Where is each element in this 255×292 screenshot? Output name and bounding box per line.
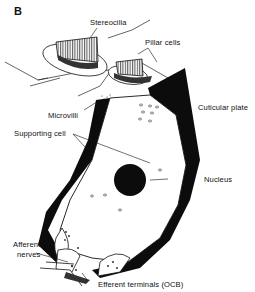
label-nucleus: Nucleus	[204, 176, 232, 184]
label-supporting-cell: Supporting cell	[14, 130, 66, 138]
panel-label: B	[14, 5, 22, 17]
label-microvilli: Microvilli	[48, 112, 78, 120]
label-afferent-line1: Afferent	[13, 241, 40, 249]
label-cuticular-plate: Cuticular plate	[198, 104, 248, 112]
hair-bundle-right	[107, 59, 152, 87]
label-pillar-cells: Pillar cells	[145, 39, 180, 47]
label-afferent-line2: nerves	[17, 251, 40, 259]
diagram-canvas: B Stereocilia Pillar cells Microvilli Cu…	[0, 0, 255, 292]
label-efferent-terminals: Efferent terminals (OCB)	[98, 281, 183, 289]
nucleus-shape	[114, 164, 146, 196]
hair-bundle-left	[40, 37, 111, 82]
label-stereocilia: Stereocilia	[90, 19, 127, 27]
